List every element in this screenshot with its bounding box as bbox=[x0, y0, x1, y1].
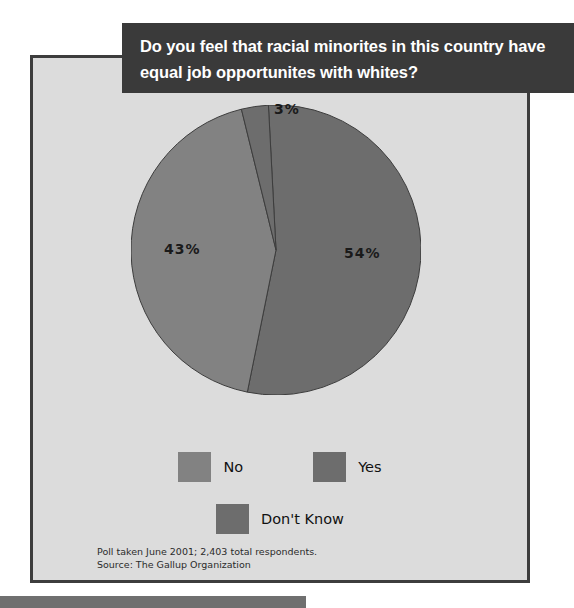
legend-row-secondary: Don't Know bbox=[33, 504, 527, 534]
bottom-accent-bar bbox=[0, 596, 306, 608]
legend-row-primary: No Yes bbox=[33, 452, 527, 482]
chart-title-line-2: equal job opportunites with whites? bbox=[140, 59, 556, 85]
chart-title-line-1: Do you feel that racial minorites in thi… bbox=[140, 33, 556, 59]
legend-item-dont-know: Don't Know bbox=[216, 504, 344, 534]
pie-label-yes: 54% bbox=[344, 245, 381, 261]
source-note-line-2: Source: The Gallup Organization bbox=[97, 559, 317, 572]
legend-label-dont-know: Don't Know bbox=[261, 511, 344, 527]
legend-swatch-yes bbox=[313, 452, 346, 482]
pie-label-no: 43% bbox=[164, 241, 201, 257]
pie-label-dont-know: 3% bbox=[274, 101, 300, 117]
source-note-line-1: Poll taken June 2001; 2,403 total respon… bbox=[97, 546, 317, 559]
legend-swatch-no bbox=[178, 452, 211, 482]
legend-label-yes: Yes bbox=[358, 459, 381, 475]
legend-item-no: No bbox=[178, 452, 243, 482]
source-note: Poll taken June 2001; 2,403 total respon… bbox=[97, 546, 317, 571]
legend-swatch-dont-know bbox=[216, 504, 249, 534]
chart-panel: 3% 43% 54% No Yes Don't Know Poll taken … bbox=[30, 55, 530, 583]
legend-label-no: No bbox=[223, 459, 243, 475]
chart-title-banner: Do you feel that racial minorites in thi… bbox=[122, 23, 574, 93]
legend-item-yes: Yes bbox=[313, 452, 381, 482]
pie-chart: 3% 43% 54% bbox=[131, 105, 421, 395]
